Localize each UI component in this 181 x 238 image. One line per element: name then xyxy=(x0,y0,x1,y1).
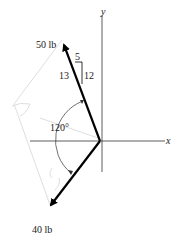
x-axis-label: x xyxy=(165,135,171,146)
force-50-label: 50 lb xyxy=(36,39,56,50)
angle-arc xyxy=(56,101,83,173)
svg-text:13: 13 xyxy=(59,70,69,81)
y-axis-label: y xyxy=(100,6,106,17)
force-40-label: 40 lb xyxy=(32,224,52,235)
svg-text:5: 5 xyxy=(75,51,80,62)
angle-label: 120° xyxy=(50,122,69,133)
force-diagram: y x 50 lb 5 13 12 40 lb 120° xyxy=(0,0,181,238)
force-40-vector xyxy=(51,141,100,205)
force-50-vector xyxy=(64,45,100,141)
svg-text:12: 12 xyxy=(84,70,94,81)
